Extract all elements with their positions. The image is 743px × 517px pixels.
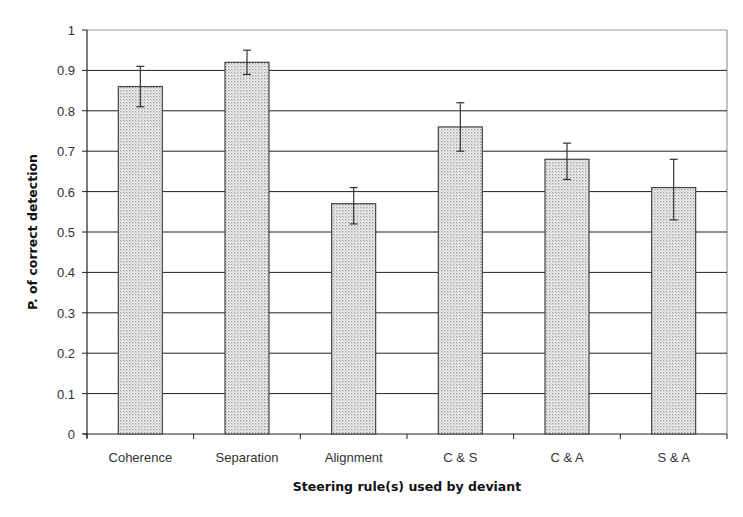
y-tick-label: 0.4: [57, 265, 75, 280]
x-tick-label: C & S: [443, 450, 477, 465]
bar-alignment: [332, 204, 376, 434]
y-tick-label: 0.6: [57, 185, 75, 200]
error-bars: [136, 50, 677, 224]
y-tick-label: 0.8: [57, 104, 75, 119]
y-tick-label: 0: [68, 427, 75, 442]
y-tick-label: 0.2: [57, 346, 75, 361]
x-axis-title: Steering rule(s) used by deviant: [293, 479, 521, 494]
y-tick-label: 0.3: [57, 306, 75, 321]
x-tick-label: Separation: [216, 450, 279, 465]
x-tick-label: Alignment: [325, 450, 383, 465]
bars: [118, 62, 695, 434]
bar-chart: 00.10.20.30.40.50.60.70.80.91 CoherenceS…: [0, 0, 743, 517]
y-axis: 00.10.20.30.40.50.60.70.80.91: [57, 23, 87, 442]
gridlines: [87, 70, 727, 393]
y-tick-label: 0.1: [57, 387, 75, 402]
y-tick-label: 1: [68, 23, 75, 38]
x-tick-labels: CoherenceSeparationAlignmentC & SC & AS …: [109, 450, 691, 465]
x-axis: [83, 434, 727, 439]
x-tick-label: Coherence: [109, 450, 173, 465]
y-tick-label: 0.7: [57, 144, 75, 159]
bar-coherence: [118, 87, 162, 434]
y-tick-label: 0.9: [57, 63, 75, 78]
bar-c-a: [545, 159, 589, 434]
bar-separation: [225, 62, 269, 434]
x-tick-label: C & A: [550, 450, 584, 465]
y-tick-label: 0.5: [57, 225, 75, 240]
x-tick-label: S & A: [657, 450, 690, 465]
bar-s-a: [652, 188, 696, 434]
bar-c-s: [438, 127, 482, 434]
y-axis-title: P. of correct detection: [25, 154, 40, 310]
